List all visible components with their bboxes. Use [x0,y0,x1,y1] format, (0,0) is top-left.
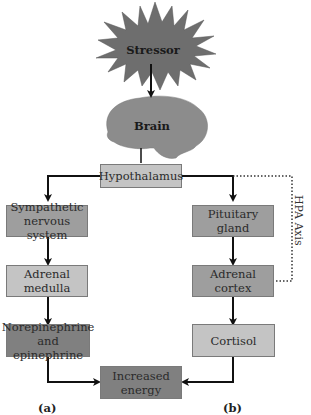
cortisol-box: Cortisol [192,324,275,357]
stressor-label: Stressor [126,43,180,57]
pituitary-line1: Pituitary [208,207,259,221]
hpa-axis-label: HPA Axis [292,195,305,246]
sympathetic-line1: Sympathetic [10,200,83,214]
adrenal-cortex-box: Adrenalcortex [192,265,274,297]
norepinephrine-box: Norepinephrineand epinephrine [6,324,90,357]
norepi-line1: Norepinephrine [2,320,95,334]
pituitary-gland-box: Pituitarygland [192,205,274,237]
norepi-line2: and epinephrine [13,334,83,362]
medulla-line1: Adrenal [24,267,70,281]
cortisol-label: Cortisol [210,334,256,348]
path-a-label: (a) [38,401,56,415]
brain-label: Brain [134,119,170,133]
outcome-line2: energy [121,383,161,397]
cortex-line2: cortex [215,281,252,295]
hypothalamus-box: Hypothalamus [100,164,182,188]
sympathetic-nervous-system-box: Sympatheticnervous system [6,205,88,237]
cortex-line1: Adrenal [210,267,256,281]
outcome-line1: Increased [112,369,170,383]
increased-energy-box: Increasedenergy [100,366,182,399]
adrenal-medulla-box: Adrenalmedulla [6,265,88,297]
path-b-label: (b) [223,401,242,415]
hypothalamus-label: Hypothalamus [99,169,183,183]
pituitary-line2: gland [217,221,250,235]
medulla-line2: medulla [24,281,71,295]
sympathetic-line2: nervous system [24,214,70,242]
